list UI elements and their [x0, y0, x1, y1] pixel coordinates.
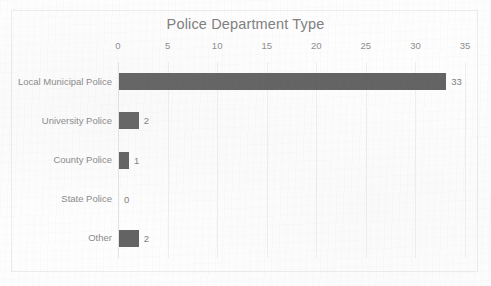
x-axis-tick-label: 0 [115, 40, 120, 51]
gridline-5 [168, 62, 169, 258]
bar-value-label-0: 33 [451, 73, 462, 90]
chart-title: Police Department Type [0, 16, 491, 32]
gridline-15 [267, 62, 268, 258]
category-label-4: Other [88, 232, 112, 243]
x-axis-tick-label: 15 [261, 40, 272, 51]
x-axis-tick-label: 30 [410, 40, 421, 51]
x-axis-tick-label: 10 [212, 40, 223, 51]
bar-2 [119, 152, 129, 169]
category-label-0: Local Municipal Police [18, 76, 112, 87]
gridline-25 [366, 62, 367, 258]
category-label-1: University Police [42, 115, 112, 126]
x-axis-tick-label: 20 [311, 40, 322, 51]
bar-1 [119, 112, 139, 129]
x-axis-tick-label: 25 [361, 40, 372, 51]
category-label-3: State Police [61, 193, 112, 204]
gridline-10 [217, 62, 218, 258]
gridline-30 [415, 62, 416, 258]
plot-area: 05101520253035332102 [118, 62, 465, 258]
category-axis-labels: Local Municipal PoliceUniversity PoliceC… [0, 62, 112, 258]
x-axis-tick-label: 5 [165, 40, 170, 51]
category-label-2: County Police [53, 154, 112, 165]
gridline-20 [316, 62, 317, 258]
x-axis-tick-label: 35 [460, 40, 471, 51]
bar-4 [119, 230, 139, 247]
bar-value-label-1: 2 [144, 112, 149, 129]
gridline-35 [465, 62, 466, 258]
bar-value-label-4: 2 [144, 230, 149, 247]
bar-0 [119, 73, 446, 90]
bar-value-label-3: 0 [124, 191, 129, 208]
chart-figure: Police Department Type Local Municipal P… [0, 0, 491, 286]
bar-value-label-2: 1 [134, 152, 139, 169]
